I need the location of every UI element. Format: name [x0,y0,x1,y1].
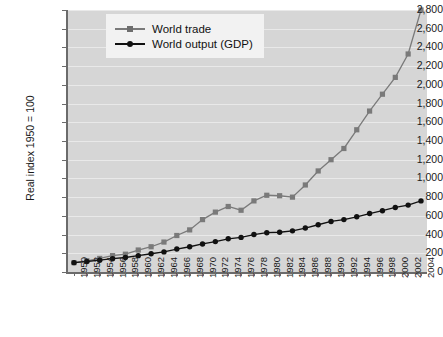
data-point-marker [71,260,76,265]
y-axis-tick [62,85,66,86]
data-point-marker [277,230,282,235]
x-axis-tick [87,272,88,276]
data-point-marker [290,228,295,233]
data-point-marker [328,219,333,224]
y-axis-tick [62,253,66,254]
data-point-marker [354,214,359,219]
x-axis-tick [203,272,204,276]
x-axis-tick [190,272,191,276]
data-point-marker [136,247,141,252]
data-point-marker [174,233,179,238]
data-point-marker [406,51,411,56]
y-axis-tick-label: 800 [383,191,443,202]
x-axis-tick [280,272,281,276]
y-axis-tick [62,47,66,48]
x-axis-tick [74,272,75,276]
x-axis-tick [292,272,293,276]
x-axis-tick [164,272,165,276]
x-axis-tick [267,272,268,276]
y-axis-tick-label: 400 [383,229,443,240]
x-axis-tick [357,272,358,276]
chart-container: Real index 1950 = 100 2,8002,6002,4002,2… [0,0,443,337]
data-point-marker [277,193,282,198]
y-axis-tick [62,178,66,179]
legend-item-world-output: World output (GDP) [115,36,253,51]
data-point-marker [264,193,269,198]
data-point-marker [187,227,192,232]
legend-label-world-trade: World trade [152,23,211,35]
y-axis-tick [62,272,66,273]
data-point-marker [341,217,346,222]
y-axis-tick [62,66,66,67]
x-axis-tick [100,272,101,276]
x-axis-tick [177,272,178,276]
x-axis-tick-label: 2004 [425,257,436,278]
legend-marker-square-icon [115,23,145,34]
y-axis-tick-label: 1,400 [383,135,443,146]
x-axis-tick [125,272,126,276]
data-point-marker [226,204,231,209]
y-axis-tick-label: 2,400 [383,41,443,52]
data-point-marker [161,239,166,244]
y-axis-title: Real index 1950 = 100 [24,48,36,248]
y-axis-tick-label: 1,000 [383,172,443,183]
y-axis-tick [62,29,66,30]
data-point-marker [200,217,205,222]
data-point-marker [149,244,154,249]
y-axis-tick-label: 2,600 [383,23,443,34]
y-axis-tick [62,122,66,123]
data-point-marker [213,210,218,215]
data-point-marker [226,236,231,241]
data-point-marker [354,127,359,132]
legend-marker-circle-icon [115,38,145,49]
y-axis-tick-label: 1,800 [383,98,443,109]
y-axis-tick-label: 600 [383,210,443,221]
data-point-marker [213,239,218,244]
x-axis-tick [113,272,114,276]
data-point-marker [367,108,372,113]
x-axis-tick [305,272,306,276]
x-axis-tick [370,272,371,276]
y-axis-tick-label: 2,200 [383,60,443,71]
x-axis-tick [241,272,242,276]
x-axis-tick [215,272,216,276]
data-point-marker [148,251,153,256]
data-point-marker [187,244,192,249]
data-point-marker [161,249,166,254]
x-axis-tick [318,272,319,276]
x-axis-tick [254,272,255,276]
data-point-marker [328,157,333,162]
x-axis-tick [344,272,345,276]
data-point-marker [405,202,410,207]
y-axis-tick [62,10,66,11]
x-axis-tick [331,272,332,276]
x-axis-tick [151,272,152,276]
data-point-marker [238,235,243,240]
x-axis-tick [421,272,422,276]
y-axis-tick-label: 2,000 [383,79,443,90]
x-axis-tick [138,272,139,276]
data-point-marker [316,168,321,173]
data-point-marker [303,225,308,230]
y-axis-tick [62,197,66,198]
x-axis-tick [228,272,229,276]
data-point-marker [251,232,256,237]
x-axis-tick [395,272,396,276]
y-axis-tick-label: 2,800 [383,4,443,15]
data-point-marker [315,222,320,227]
data-point-marker [367,211,372,216]
x-axis-tick [382,272,383,276]
y-axis-tick [62,235,66,236]
y-axis-tick-label: 1,600 [383,116,443,127]
y-axis-tick [62,216,66,217]
y-axis-line [66,10,68,273]
data-point-marker [264,230,269,235]
y-axis-tick [62,141,66,142]
data-point-marker [341,146,346,151]
data-point-marker [238,208,243,213]
data-point-marker [251,198,256,203]
data-point-marker [290,195,295,200]
x-axis-tick [408,272,409,276]
legend: World trade World output (GDP) [106,14,264,58]
data-point-marker [303,182,308,187]
